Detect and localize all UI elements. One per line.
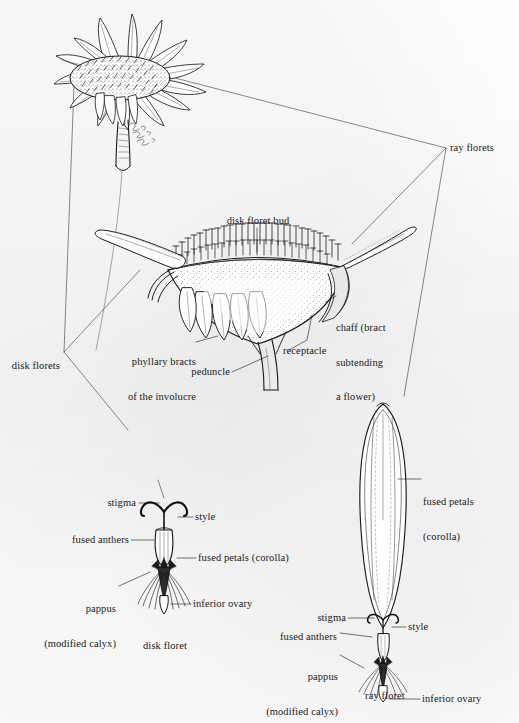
label-phyllary-line2: of the involucre: [78, 391, 196, 403]
label-fused-petals-ray-line1: fused petals: [423, 496, 513, 508]
label-pappus-ray: pappus (modified calyx): [248, 648, 338, 723]
label-corolla-ray-line2: (corolla): [423, 531, 513, 543]
label-stigma-ray: stigma: [300, 612, 346, 624]
caption-disk-floret: disk floret: [110, 640, 220, 652]
label-disk-florets: disk florets: [2, 360, 60, 372]
label-chaff-line1: chaff (bract: [336, 322, 426, 334]
label-pappus-ray-line2: (modified calyx): [248, 706, 338, 718]
label-style-disk: style: [195, 511, 215, 523]
label-stigma-disk: stigma: [86, 497, 136, 509]
label-pappus-ray-line1: pappus: [248, 671, 338, 683]
label-peduncle: peduncle: [172, 366, 230, 378]
label-fused-petals-ray: fused petals (corolla): [423, 473, 513, 565]
disk-floret-drawing: [138, 480, 190, 614]
ray-floret-base-parts: [359, 614, 407, 702]
label-style-ray: style: [408, 621, 428, 633]
label-pappus-disk-line1: pappus: [30, 603, 116, 615]
label-ray-florets: ray florets: [450, 142, 494, 154]
label-pappus-disk: pappus (modified calyx): [30, 580, 116, 672]
label-inferior-ovary-disk: inferior ovary: [193, 598, 252, 610]
caption-ray-floret: ray floret: [330, 690, 440, 702]
label-phyllary-bracts: phyllary bracts of the involucre: [78, 333, 196, 425]
ray-floret-right: [340, 227, 416, 269]
inferior-ovary-shape: [160, 596, 169, 614]
label-chaff-line2: subtending: [336, 357, 398, 369]
label-disk-floret-bud: disk floret bud: [198, 215, 318, 227]
label-fused-anthers-ray: fused anthers: [252, 631, 337, 643]
diagram-page: ray florets disk florets disk floret bud…: [0, 0, 519, 723]
label-chaff-line3: a flower): [336, 391, 398, 403]
label-fused-anthers-disk: fused anthers: [44, 534, 129, 546]
label-pappus-disk-line2: (modified calyx): [30, 638, 116, 650]
label-chaff: chaff (bract subtending a flower): [336, 299, 426, 426]
artist-signature: [130, 123, 155, 145]
ray-floret-left: [95, 230, 185, 268]
label-fused-petals-corolla-disk: fused petals (corolla): [198, 552, 289, 564]
ray-floret-drawing: [359, 403, 407, 702]
label-receptacle: receptacle: [283, 345, 327, 357]
